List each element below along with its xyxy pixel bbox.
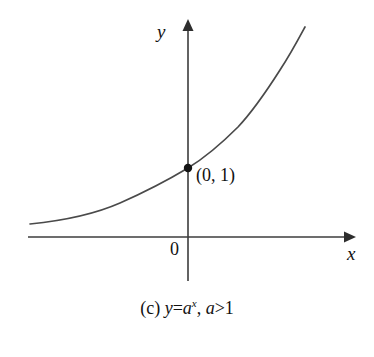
y-axis-label: y <box>157 22 165 41</box>
caption-condition-value: 1 <box>225 298 234 318</box>
caption-equals-sign: = <box>173 298 183 318</box>
caption-base: a <box>183 298 192 318</box>
exponential-curve <box>30 27 305 224</box>
origin-label: 0 <box>170 240 179 258</box>
x-axis-label: x <box>347 244 355 263</box>
x-axis-arrowhead <box>344 232 356 243</box>
y-axis-arrowhead <box>183 19 194 31</box>
caption-index: (c) <box>140 298 160 318</box>
caption-comma: , <box>197 298 202 318</box>
caption-condition-variable: a <box>206 298 215 318</box>
caption-condition-operator: > <box>215 298 225 318</box>
exponential-growth-figure: y x 0 (0, 1) (c) y=ax, a>1 <box>0 0 374 357</box>
point-annotation-label: (0, 1) <box>196 166 235 184</box>
caption-lhs: y <box>165 298 173 318</box>
y-intercept-dot <box>184 164 192 172</box>
figure-caption: (c) y=ax, a>1 <box>0 298 374 320</box>
